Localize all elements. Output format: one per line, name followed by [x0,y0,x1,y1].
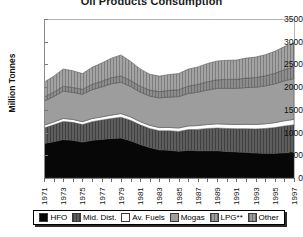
legend-label: HFO [50,213,67,222]
legend-label: Mogas [181,213,205,222]
x-tick-label: 1977 [98,183,107,205]
legend-label: LPG** [221,213,243,222]
x-tick-label: 1979 [117,183,126,205]
y-tick-mark [44,19,48,20]
x-tick-mark [217,178,218,182]
y-tick-label: 1500 [267,106,303,114]
x-tick-mark [150,178,151,182]
x-tick-label: 1971 [40,183,49,205]
x-tick-mark [265,178,266,182]
x-tick-mark [188,178,189,182]
x-tick-label: 1987 [194,183,203,205]
chart-legend: HFOMid. Dist.Av. FuelsMogasLPG**Other [33,210,285,225]
x-tick-label: 1975 [78,183,87,205]
y-tick-label: 2500 [267,60,303,68]
x-tick-mark [63,178,64,182]
x-tick-mark [246,178,247,182]
x-tick-mark [131,178,132,182]
x-tick-mark [256,178,257,182]
x-tick-label: 1991 [232,183,241,205]
legend-swatch-icon [210,213,219,222]
y-tick-label: 3000 [267,38,303,46]
area-chart-svg [44,19,294,178]
x-tick-label: 1997 [290,183,299,205]
x-tick-mark [227,178,228,182]
x-tick-label: 1995 [271,183,280,205]
y-axis-title: Million Tonnes [7,48,17,118]
legend-label: Mid. Dist. [83,213,116,222]
legend-swatch-icon [39,213,48,222]
x-tick-mark [198,178,199,182]
x-tick-label: 1993 [252,183,261,205]
x-tick-label: 1973 [59,183,68,205]
legend-label: Av. Fuels [132,213,165,222]
legend-item-lpg[interactable]: LPG** [210,213,243,222]
legend-item-mogas[interactable]: Mogas [170,213,205,222]
x-tick-mark [236,178,237,182]
y-tick-label: 2000 [267,83,303,91]
legend-swatch-icon [248,213,257,222]
x-tick-mark [92,178,93,182]
x-tick-mark [169,178,170,182]
legend-swatch-icon [72,213,81,222]
y-tick-label: 500 [267,151,303,159]
x-tick-mark [275,178,276,182]
x-tick-mark [207,178,208,182]
x-tick-mark [140,178,141,182]
plot-area [44,19,294,178]
legend-item-other[interactable]: Other [248,213,279,222]
legend-item-hfo[interactable]: HFO [39,213,67,222]
x-tick-mark [294,178,295,182]
y-tick-label: 1000 [267,129,303,137]
chart-container: Oil Products Consumption Million Tonnes [0,0,303,237]
x-tick-mark [73,178,74,182]
y-tick-mark [44,87,48,88]
x-tick-mark [159,178,160,182]
legend-label: Other [259,213,279,222]
chart-title: Oil Products Consumption [0,0,303,7]
x-tick-mark [179,178,180,182]
y-tick-label: 3500 [267,15,303,23]
x-tick-mark [82,178,83,182]
y-tick-mark [44,64,48,65]
x-tick-label: 1981 [136,183,145,205]
x-tick-mark [121,178,122,182]
legend-swatch-icon [170,213,179,222]
legend-item-mid-dist[interactable]: Mid. Dist. [72,213,116,222]
y-tick-mark [44,42,48,43]
x-tick-mark [111,178,112,182]
x-tick-label: 1985 [175,183,184,205]
x-tick-mark [102,178,103,182]
plot-top-rule [44,19,295,20]
x-tick-label: 1989 [213,183,222,205]
legend-swatch-icon [121,213,130,222]
x-tick-mark [284,178,285,182]
x-tick-mark [54,178,55,182]
y-tick-mark [44,110,48,111]
y-tick-mark [44,133,48,134]
x-tick-mark [44,178,45,182]
x-tick-label: 1983 [155,183,164,205]
y-tick-mark [44,155,48,156]
legend-item-av-fuels[interactable]: Av. Fuels [121,213,165,222]
